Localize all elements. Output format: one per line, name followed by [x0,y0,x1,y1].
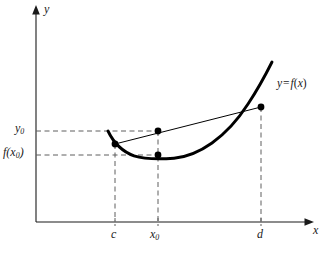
guide-lines-group [36,107,261,222]
y-axis-arrowhead [32,5,40,15]
x-tick-label-d: d [257,228,263,240]
curve-equation-label: y=f(x) [277,78,307,90]
y0-value-label: y0 [15,122,24,134]
fx0-variable: x [10,145,15,159]
point-x0-on-curve [155,152,162,159]
point-x0-on-secant [155,128,162,135]
point-c-on-curve [112,141,119,148]
curve-label-equals: = [282,77,291,89]
secant-line [115,107,261,144]
point-d-on-curve [258,104,265,111]
x-tick-label-x0: x0 [150,228,159,240]
y-axis-label: y [44,3,49,15]
fx0-close-paren: ) [20,145,24,159]
y0-subscript: 0 [20,127,24,136]
fx0-value-label: f(x0) [3,146,24,158]
x0-subscript: 0 [155,233,159,242]
x-tick-label-c: c [111,228,116,240]
fx0-subscript: 0 [16,151,20,160]
curve-label-close-paren: ) [303,77,307,89]
figure-canvas [0,0,326,253]
x-axis-label: x [313,224,318,236]
axes-group [32,5,314,226]
figure-container: y x y0 f(x0) c x0 d y=f(x) [0,0,326,253]
